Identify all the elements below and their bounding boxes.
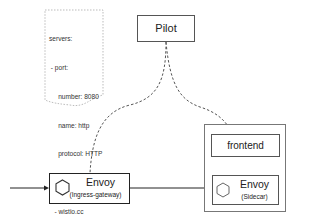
sidecar-title: Envoy <box>231 178 278 190</box>
gateway-subtitle: (Ingress-gateway) <box>62 191 129 198</box>
frontend-node: frontend <box>211 134 280 157</box>
config-line: name: http <box>49 121 101 131</box>
config-line: servers: <box>49 34 101 44</box>
gateway-node: Envoy (Ingress-gateway) <box>49 173 130 204</box>
hexagon-icon <box>216 182 230 198</box>
pilot-node: Pilot <box>137 15 195 42</box>
config-line: - port: <box>49 63 101 73</box>
config-line: number: 8080 <box>49 92 101 102</box>
config-line: - wistio.cc <box>49 207 101 217</box>
gateway-title: Envoy <box>72 176 129 188</box>
sidecar-node: Envoy (Sidecar) <box>212 175 279 205</box>
frontend-label: frontend <box>212 140 279 151</box>
sidecar-subtitle: (Sidecar) <box>231 193 278 200</box>
pilot-label: Pilot <box>138 22 194 34</box>
config-line: protocol: HTTP <box>49 149 101 159</box>
